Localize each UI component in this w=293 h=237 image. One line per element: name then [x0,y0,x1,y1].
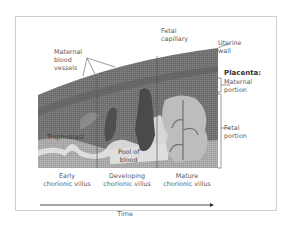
label-line: Pool of [118,148,139,156]
label-line: capillary [161,35,188,43]
label-maternal-blood-vessels: Maternal blood vessels [54,48,82,72]
label-placenta: Placenta: [224,69,261,77]
time-axis-label: Time [100,210,150,218]
label-line: Uterine [218,39,242,47]
label-line: Fetal [224,124,247,132]
label-pool-of-blood: Pool of blood [118,148,139,164]
stage-line: Mature [157,172,217,180]
label-fetal-capillary: Fetal capillary [161,27,188,43]
label-fetal-portion: Fetal portion [224,124,247,140]
stage-line: chorionic villus [97,180,157,188]
label-line: Maternal [224,78,252,86]
label-line: blood [54,56,82,64]
label-line: blood [118,156,139,164]
label-line: Fetal [161,27,188,35]
label-line: wall [218,47,242,55]
label-trophoblast: Trophoblast [47,133,84,141]
placenta-illustration [0,0,293,237]
label-line: Maternal [54,48,82,56]
label-maternal-portion: Maternal portion [224,78,252,94]
stage-line: Developing [97,172,157,180]
stage-developing: Developing chorionic villus [97,172,157,188]
stage-line: chorionic villus [38,180,96,188]
stage-mature: Mature chorionic villus [157,172,217,188]
label-uterine-wall: Uterine wall [218,39,242,55]
stage-early: Early chorionic villus [38,172,96,188]
label-line: portion [224,132,247,140]
stage-line: chorionic villus [157,180,217,188]
label-line: vessels [54,64,82,72]
time-arrow-head [210,203,214,207]
stage-line: Early [38,172,96,180]
label-line: portion [224,86,252,94]
